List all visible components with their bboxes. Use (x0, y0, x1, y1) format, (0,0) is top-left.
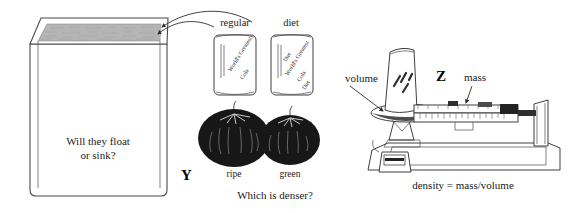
tomato-green-label: green (279, 169, 300, 179)
tomato-ripe-body (198, 109, 270, 167)
balance-window-needle (385, 158, 404, 161)
tank-body (30, 44, 167, 196)
tomato-green-body (260, 115, 320, 165)
balance-poise-1[interactable] (448, 101, 458, 106)
tomato-ripe-label: ripe (227, 169, 242, 179)
density-equation: density = mass/volume (412, 179, 514, 191)
denser-question: Which is denser? (237, 189, 313, 201)
can-regular-label: regular (220, 17, 250, 28)
balance-beam-middle (414, 113, 518, 122)
balance-pointer (518, 110, 536, 116)
tank-question-line1: Will they float (66, 135, 130, 147)
balance-reading-window (379, 152, 411, 172)
can-on-pan (385, 48, 417, 112)
tank-question-line2: or sink? (80, 149, 115, 161)
can-diet-label: diet (283, 17, 299, 28)
water-tank-group: Will they float or sink? (30, 18, 168, 196)
mass-label: mass (464, 71, 486, 83)
volume-label: volume (345, 72, 378, 84)
density-illustration: Will they float or sink? regular World's… (0, 0, 568, 213)
balance-poise-3[interactable] (500, 104, 518, 114)
balance-post (534, 100, 548, 146)
water-surface (38, 24, 161, 41)
panel-marker-z: Z (436, 68, 446, 84)
panel-marker-y: Y (181, 167, 192, 183)
balance-poise-2[interactable] (478, 102, 492, 107)
